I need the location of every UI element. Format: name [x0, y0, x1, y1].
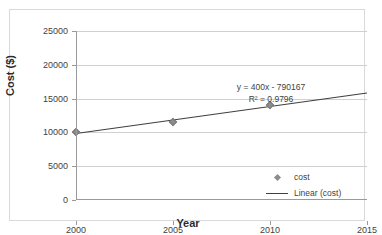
y-tick-mark	[72, 200, 76, 201]
y-tick-label: 15000	[24, 95, 68, 104]
y-tick-label: 25000	[24, 27, 68, 36]
plot-area: 0500010000150002000025000 20002005201020…	[76, 31, 367, 200]
chart-frame: Cost ($) Year 0500010000150002000025000 …	[9, 9, 365, 221]
y-tick-label: 10000	[24, 128, 68, 137]
x-tick-label: 2015	[347, 225, 382, 235]
y-tick-label: 5000	[24, 162, 68, 171]
y-tick-label: 20000	[24, 61, 68, 70]
y-axis-title: Cost ($)	[4, 55, 16, 96]
chart-legend: cost Linear (cost)	[264, 169, 341, 201]
trendline-equation: y = 400x - 790167	[211, 81, 331, 93]
legend-label-linear-cost: Linear (cost)	[290, 188, 341, 198]
diamond-marker-icon	[264, 175, 290, 180]
legend-label-cost: cost	[290, 172, 310, 182]
legend-item-cost: cost	[264, 169, 341, 185]
trendline-r-squared: R² = 0.9796	[211, 93, 331, 105]
legend-item-linear-cost: Linear (cost)	[264, 185, 341, 201]
line-swatch-icon	[264, 193, 290, 194]
x-tick-label: 2010	[250, 225, 290, 235]
x-tick-label: 2000	[56, 225, 96, 235]
x-tick-label: 2005	[153, 225, 193, 235]
trendline-annotation: y = 400x - 790167 R² = 0.9796	[211, 81, 331, 105]
y-tick-label: 0	[24, 196, 68, 205]
